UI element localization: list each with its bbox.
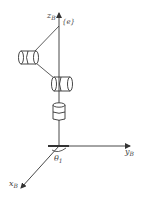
- z-axis-label: zB: [46, 11, 56, 21]
- x-axis-label: xB: [9, 179, 19, 189]
- y-axis-label: yB: [124, 147, 135, 157]
- joint-1-cylinder: [53, 103, 65, 120]
- end-effector-frame-label: {e}: [62, 18, 75, 26]
- x-axis: [21, 146, 59, 188]
- joint-2-cylinder: [52, 77, 73, 91]
- kinematic-diagram: zB {e} θ1 yB xB: [0, 0, 143, 203]
- theta-label: θ1: [54, 154, 63, 164]
- link-joint3-to-joint2: [36, 63, 54, 78]
- theta-arc: [52, 148, 66, 152]
- joint-3-cylinder: [19, 51, 39, 64]
- link-ee-to-joint3: [34, 26, 59, 52]
